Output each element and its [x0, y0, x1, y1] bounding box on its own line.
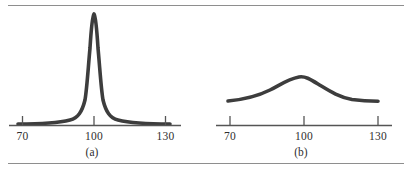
- tick-label-70-a: 70: [3, 131, 43, 143]
- panel-caption-a: (a): [0, 147, 195, 159]
- narrow-normal-curve: [18, 14, 170, 124]
- wide-normal-curve: [228, 77, 378, 101]
- plot-a: [0, 0, 206, 145]
- panel-b: 70 100 130 (b): [206, 0, 412, 174]
- tick-label-100-b: 100: [284, 131, 324, 143]
- tick-label-100-a: 100: [74, 131, 114, 143]
- tick-label-130-b: 130: [358, 131, 398, 143]
- tick-label-130-a: 130: [146, 131, 186, 143]
- panel-a: 70 100 130 (a): [0, 0, 206, 174]
- plot-b: [206, 0, 412, 145]
- bottom-divider-rule: [8, 163, 404, 164]
- panel-caption-b: (b): [198, 147, 404, 159]
- tick-label-70-b: 70: [210, 131, 250, 143]
- figure-container: 70 100 130 (a) 70 100 130 (b): [0, 0, 412, 174]
